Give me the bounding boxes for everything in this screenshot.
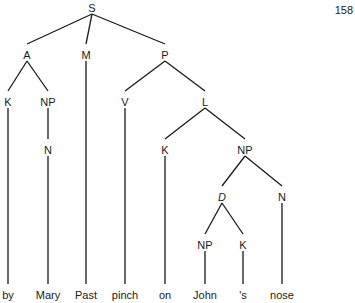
tree-edge [165, 61, 205, 91]
tree-leaf-word: on [159, 289, 171, 301]
tree-edge [27, 61, 48, 91]
tree-node-label: NP [40, 96, 55, 108]
tree-node-label: V [121, 96, 129, 108]
tree-node-label: A [23, 49, 31, 61]
tree-edge [205, 108, 245, 139]
tree-edge [222, 203, 243, 234]
tree-node-label: K [239, 239, 247, 251]
tree-node-label: D [218, 191, 226, 203]
tree-node-label: M [81, 49, 90, 61]
syntax-tree-diagram: SAMPKNPVLNKNPDNNPKbyMaryPastpinchonJohn'… [0, 0, 355, 303]
tree-labels: SAMPKNPVLNKNPDNNPKbyMaryPastpinchonJohn'… [2, 2, 294, 301]
tree-leaf-word: by [2, 289, 14, 301]
tree-edge [27, 14, 92, 44]
tree-leaf-word: Past [75, 289, 97, 301]
tree-edge [245, 156, 282, 186]
tree-edge [92, 14, 165, 44]
tree-node-label: S [88, 2, 95, 14]
tree-edge [205, 203, 222, 234]
tree-leaf-word: Mary [36, 289, 61, 301]
page-number: 158 [335, 4, 353, 16]
tree-leaf-word: pinch [112, 289, 138, 301]
tree-edge [8, 61, 27, 91]
tree-edge [165, 108, 205, 139]
tree-node-label: NP [237, 144, 252, 156]
tree-leaf-word: nose [270, 289, 294, 301]
tree-node-label: L [202, 96, 208, 108]
tree-leaf-word: 's [239, 289, 247, 301]
tree-node-label: N [44, 144, 52, 156]
tree-edge [222, 156, 245, 186]
tree-node-label: N [278, 191, 286, 203]
tree-node-label: NP [197, 239, 212, 251]
tree-edge [86, 14, 92, 44]
tree-edge [125, 61, 165, 91]
tree-leaf-word: John [193, 289, 217, 301]
tree-node-label: K [4, 96, 12, 108]
tree-node-label: K [161, 144, 169, 156]
tree-node-label: P [161, 49, 168, 61]
